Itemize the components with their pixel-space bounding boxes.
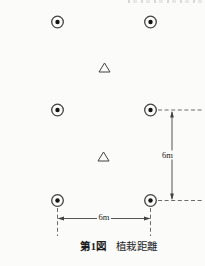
tree-symbol-dot-icon [55,198,59,202]
arrowhead-up-icon [170,111,174,118]
tree-symbol-dot-icon [55,20,59,24]
dimension-label: 6m [162,150,173,160]
arrowhead-left-icon [58,217,65,221]
tree-symbol-dot-icon [148,108,152,112]
tree-symbol-dot-icon [55,108,59,112]
tree-symbol-dot-icon [148,20,152,24]
figure-title: 植栽距離 [116,241,158,252]
planting-distance-diagram: 6m6m [0,0,205,240]
figure-number: 第1図 [80,241,107,252]
dimension-label: 6m [99,212,110,222]
tree-symbol-dot-icon [148,198,152,202]
arrowhead-right-icon [144,217,151,221]
figure-caption: 第1図植栽距離 [34,240,204,255]
triangle-marker-icon [98,152,109,161]
figure-page: 6m6m 第1図植栽距離 [0,0,205,266]
triangle-marker-icon [99,63,110,72]
arrowhead-down-icon [170,194,174,201]
